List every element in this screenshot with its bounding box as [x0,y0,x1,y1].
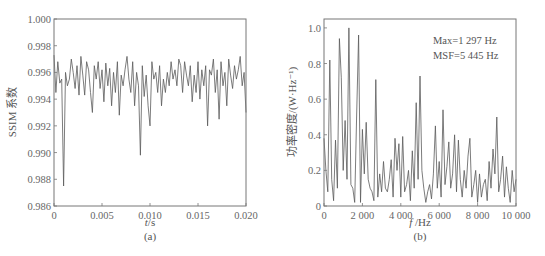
y-tick-label: 0.996 [27,67,51,78]
annotation-msf: MSF=5 445 Hz [433,50,499,61]
y-axis-label-a: SSIM 系数 [6,87,18,137]
x-tick-label: 6 000 [427,210,451,221]
y-tick-label: 0.4 [308,130,322,141]
y-tick-label: 0.2 [308,165,321,176]
y-tick-label: 0.998 [27,41,51,52]
x-tick-label: 0.005 [90,210,114,221]
annotation-max: Max=1 297 Hz [433,35,497,46]
chart-ssim: 0.9860.9880.9900.9920.9940.9960.9981.000… [6,14,258,243]
x-tick-label: 2 000 [351,210,375,221]
x-tick-label: 0 [51,210,56,221]
y-tick-label: 1.000 [27,14,51,25]
y-axis-label-b: 功率密度/(W·Hz⁻¹) [285,66,299,157]
x-tick-label: 0.020 [234,210,258,221]
y-tick-label: 0.994 [27,94,51,105]
ssim-line [54,55,246,186]
figure: 0.9860.9880.9900.9920.9940.9960.9981.000… [0,0,545,256]
x-tick-label: 10 000 [502,210,531,221]
panel-label-b: (b) [414,230,427,243]
x-tick-label: 0.015 [186,210,210,221]
chart-power-density: 00.20.40.60.81.0 02 0004 0006 0008 00010… [285,19,530,243]
x-axis-label-b: f /Hz [409,216,431,228]
y-tick-label: 0.6 [308,94,321,105]
y-tick-label: 0.986 [27,201,51,212]
y-tick-label: 1.0 [308,23,321,34]
y-tick-label: 0.988 [27,174,51,185]
y-tick-label: 0.992 [27,121,51,132]
x-axis-label-a: t/s [145,216,155,228]
panel-label-a: (a) [144,230,157,243]
x-tick-label: 8 000 [466,210,490,221]
y-tick-label: 0.990 [27,148,51,159]
y-tick-label: 0 [316,201,321,212]
y-ticks-a: 0.9860.9880.9900.9920.9940.9960.9981.000 [27,14,57,212]
plot-frame-b [324,19,516,206]
y-tick-label: 0.8 [308,59,321,70]
x-tick-label: 0 [321,210,326,221]
